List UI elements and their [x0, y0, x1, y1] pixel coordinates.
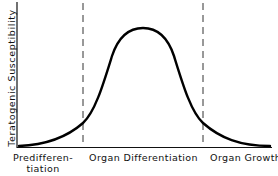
stage-label-organ-differentiation: Organ Differentiation — [89, 152, 198, 163]
susceptibility-curve — [19, 28, 270, 146]
stage-label-organ-growth: Organ Growth — [210, 152, 278, 163]
stage-label-line2: tiation — [7, 163, 79, 174]
y-axis-label: Teratogenic Susceptibility — [6, 3, 18, 153]
stage-label-predifferentiation: Predifferen- tiation — [7, 152, 79, 174]
chart-plot-area — [0, 0, 278, 176]
stage-label-line1: Predifferen- — [7, 152, 79, 163]
